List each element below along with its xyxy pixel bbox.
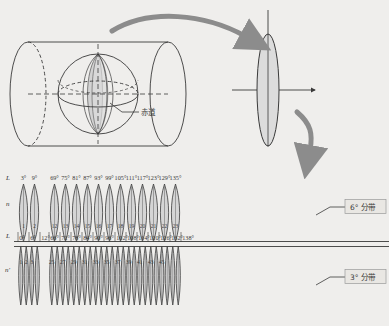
- zone-number: 29: [71, 259, 77, 265]
- zone-number: 27: [60, 259, 66, 265]
- band6-strips: [19, 184, 179, 242]
- zone-boundary-label: 90°: [94, 234, 103, 241]
- central-meridian-label: 87°: [83, 174, 92, 181]
- zone-number: 21: [151, 223, 157, 229]
- zone-number: 25: [49, 259, 55, 265]
- cylinder-projection-group: 赤道: [10, 42, 186, 146]
- zone-number: 35: [104, 259, 110, 265]
- callout-3deg-leader: [316, 277, 346, 285]
- equator-label: 赤道: [141, 107, 156, 117]
- zone-number: 39: [126, 259, 132, 265]
- zone-number: 1: [19, 259, 22, 265]
- band6-zone-numbers: 12121314151617181920212223: [22, 223, 178, 229]
- zone-strips-group: L n L n' 3°9°69°75°81°87°93°99°105°111°1…: [5, 174, 389, 305]
- callout-6deg-group: 6° 分带: [316, 200, 386, 216]
- zone-number: 23: [173, 223, 179, 229]
- central-meridian-label: 81°: [72, 174, 81, 181]
- zone-number: 13: [63, 223, 69, 229]
- zone-number: 41: [137, 259, 143, 265]
- zone-number: 14: [74, 223, 80, 229]
- process-arrows: [112, 16, 311, 150]
- zone-number: 1: [22, 223, 25, 229]
- callout-3deg-group: 3° 分带: [316, 270, 386, 286]
- projected-gore-group: [232, 10, 315, 146]
- zone-number: 2: [33, 223, 36, 229]
- zone-number: 37: [115, 259, 121, 265]
- zone-number: 3: [30, 259, 33, 265]
- zone-boundary-label: 78°: [72, 234, 81, 241]
- zone-number: 18: [118, 223, 124, 229]
- central-meridian-label: 135°: [170, 174, 182, 181]
- zone-number: 15: [85, 223, 91, 229]
- arrow-gore-to-strips: [297, 112, 311, 150]
- central-meridian-label: 9°: [32, 174, 38, 181]
- band3-strips: [19, 247, 181, 306]
- zone-boundary-label: 0°: [19, 234, 25, 241]
- zone-number: 33: [93, 259, 99, 265]
- cylinder-left-cap-front: [10, 42, 28, 146]
- zone-number: 45: [159, 259, 165, 265]
- arrow-globe-to-gore: [112, 16, 245, 36]
- zone-number: 43: [148, 259, 154, 265]
- callout-3deg-label: 3° 分带: [350, 273, 376, 282]
- diagram-svg: 赤道 L n L n' 3°9°69°75°81°87°93°99°105°11…: [0, 0, 389, 326]
- central-meridian-label: 99°: [105, 174, 114, 181]
- callout-6deg-leader: [316, 207, 346, 215]
- zone-number: 2: [25, 259, 28, 265]
- band6-central-meridian-labels: 3°9°69°75°81°87°93°99°105°111°117°123°12…: [21, 174, 182, 181]
- zone-number: 22: [162, 223, 168, 229]
- band6-boundary-labels: 0°6°12°66°72°78°84°90°96°102°108°114°120…: [18, 232, 194, 242]
- figure-root: 赤道 L n L n' 3°9°69°75°81°87°93°99°105°11…: [0, 0, 389, 326]
- central-meridian-label: 93°: [94, 174, 103, 181]
- zone-number: 12: [52, 223, 58, 229]
- central-meridian-label: 3°: [21, 174, 27, 181]
- zone-boundary-label: 84°: [83, 234, 92, 241]
- row-label-L-bottom: L: [5, 232, 10, 240]
- row-label-n-prime: n': [5, 266, 11, 274]
- zone-number: 20: [140, 223, 146, 229]
- row-label-L-top: L: [5, 174, 10, 182]
- band3-zone-numbers: 1232527293133353739414345: [19, 259, 164, 265]
- zone-boundary-label: 96°: [105, 234, 114, 241]
- central-meridian-label: 69°: [50, 174, 59, 181]
- zone-boundary-label: 138°: [182, 234, 194, 241]
- callout-6deg-label: 6° 分带: [350, 203, 376, 212]
- zone-boundary-label: 6°: [30, 234, 36, 241]
- zone-number: 19: [129, 223, 135, 229]
- zone-number: 17: [107, 223, 113, 229]
- central-meridian-label: 75°: [61, 174, 70, 181]
- zone-number: 16: [96, 223, 102, 229]
- zone-boundary-label: 72°: [61, 234, 70, 241]
- zone-boundary-label: 66°: [50, 234, 59, 241]
- zone-number: 31: [82, 259, 88, 265]
- row-label-n: n: [6, 200, 10, 208]
